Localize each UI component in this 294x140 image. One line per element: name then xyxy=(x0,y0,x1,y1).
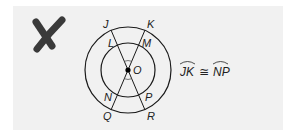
incorrect-x-icon xyxy=(36,20,62,49)
label-p: P xyxy=(145,91,153,103)
arc-overline-jk xyxy=(180,62,195,65)
label-l: L xyxy=(108,37,114,49)
angle-mark-bottom xyxy=(124,79,131,80)
label-n: N xyxy=(104,91,112,103)
arc-np: NP xyxy=(213,65,230,79)
concentric-circles-diagram: O J K L M N P Q R JK ≅ NP xyxy=(0,0,294,140)
label-j: J xyxy=(102,18,109,30)
arc-congruence-statement: JK ≅ NP xyxy=(179,62,230,80)
label-k: K xyxy=(147,18,155,30)
congruent-symbol: ≅ xyxy=(199,65,209,79)
center-point xyxy=(125,67,130,72)
label-r: R xyxy=(147,110,155,122)
arc-overline-np xyxy=(213,62,228,65)
label-o: O xyxy=(133,64,142,76)
angle-mark-top xyxy=(124,61,131,62)
label-q: Q xyxy=(103,110,112,122)
label-m: M xyxy=(142,37,152,49)
arc-jk: JK xyxy=(179,65,195,79)
